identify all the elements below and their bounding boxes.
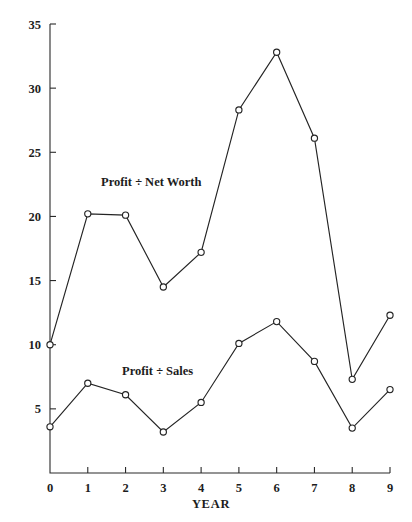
data-point-marker bbox=[122, 392, 128, 398]
data-point-marker bbox=[387, 312, 393, 318]
data-point-marker bbox=[311, 135, 317, 141]
chart-container: 5101520253035 0123456789 Profit ÷ Net Wo… bbox=[0, 0, 412, 522]
data-point-marker bbox=[311, 358, 317, 364]
x-tick-label: 0 bbox=[47, 481, 53, 495]
data-point-marker bbox=[47, 342, 53, 348]
data-point-marker bbox=[198, 399, 204, 405]
series-annotations: Profit ÷ Net WorthProfit ÷ Sales bbox=[101, 175, 202, 378]
data-point-marker bbox=[122, 212, 128, 218]
y-tick-label: 35 bbox=[29, 18, 42, 32]
series-line bbox=[50, 52, 390, 379]
y-tick-label: 25 bbox=[29, 146, 42, 160]
series-line bbox=[50, 322, 390, 432]
series-label-1: Profit ÷ Net Worth bbox=[101, 175, 202, 189]
y-tick-label: 20 bbox=[29, 210, 42, 224]
y-tick-label: 15 bbox=[29, 274, 42, 288]
line-chart: 5101520253035 0123456789 Profit ÷ Net Wo… bbox=[0, 0, 412, 522]
x-tick-label: 8 bbox=[349, 481, 355, 495]
x-tick-label: 9 bbox=[387, 481, 393, 495]
x-tick-label: 7 bbox=[311, 481, 317, 495]
x-tick-label: 6 bbox=[274, 481, 280, 495]
x-tick-label: 3 bbox=[160, 481, 166, 495]
y-tick-label: 30 bbox=[29, 82, 42, 96]
data-point-marker bbox=[198, 249, 204, 255]
data-point-marker bbox=[274, 319, 280, 325]
y-tick-label: 10 bbox=[29, 338, 42, 352]
data-point-marker bbox=[274, 49, 280, 55]
data-point-marker bbox=[85, 380, 91, 386]
series-group bbox=[47, 49, 393, 435]
x-axis-ticks: 0123456789 bbox=[47, 467, 393, 495]
x-tick-label: 1 bbox=[85, 481, 91, 495]
series-label-2: Profit ÷ Sales bbox=[122, 364, 193, 378]
data-point-marker bbox=[349, 425, 355, 431]
data-point-marker bbox=[387, 387, 393, 393]
y-axis-ticks: 5101520253035 bbox=[29, 18, 57, 417]
y-tick-label: 5 bbox=[35, 402, 41, 416]
x-tick-label: 2 bbox=[122, 481, 128, 495]
data-point-marker bbox=[236, 340, 242, 346]
x-tick-label: 4 bbox=[198, 481, 205, 495]
data-point-marker bbox=[236, 107, 242, 113]
x-tick-label: 5 bbox=[236, 481, 242, 495]
data-point-marker bbox=[160, 284, 166, 290]
data-point-marker bbox=[349, 376, 355, 382]
series-1 bbox=[47, 49, 393, 382]
x-axis-title: YEAR bbox=[192, 497, 230, 511]
data-point-marker bbox=[47, 424, 53, 430]
data-point-marker bbox=[85, 211, 91, 217]
data-point-marker bbox=[160, 429, 166, 435]
series-2 bbox=[47, 319, 393, 436]
